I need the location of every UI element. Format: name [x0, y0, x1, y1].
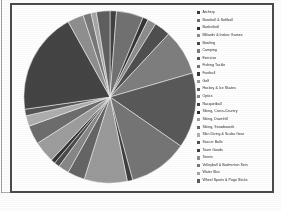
legend-item[interactable]: Camping — [197, 47, 269, 55]
legend-item-label: Skiing, Downhill — [202, 116, 228, 124]
legend-item-label: Billiards & Indoor Games — [202, 32, 242, 40]
legend-item[interactable]: Tennis — [197, 154, 269, 162]
chart-page: ArcheryBaseball & SoftballBasketballBill… — [0, 0, 281, 211]
legend-swatch-icon — [197, 156, 200, 159]
outer-border-bottom — [1, 192, 10, 193]
legend-item[interactable]: Football — [197, 70, 269, 78]
legend-item[interactable]: Soccer Balls — [197, 139, 269, 147]
legend-swatch-icon — [197, 65, 200, 68]
legend-swatch-icon — [197, 19, 200, 22]
outer-border-left — [1, 0, 2, 193]
legend-swatch-icon — [197, 49, 200, 52]
legend-item[interactable]: Billiards & Indoor Games — [197, 32, 269, 40]
legend-swatch-icon — [197, 172, 200, 175]
legend-item[interactable]: Skiing, Downhill — [197, 116, 269, 124]
legend-swatch-icon — [197, 95, 200, 98]
legend-swatch-icon — [197, 118, 200, 121]
chart-frame: ArcheryBaseball & SoftballBasketballBill… — [10, 3, 274, 193]
legend-swatch-icon — [197, 164, 200, 167]
legend-swatch-icon — [197, 149, 200, 152]
legend-item[interactable]: Wheel Sports & Pogo Sticks — [197, 177, 269, 185]
legend-item[interactable]: Archery — [197, 9, 269, 17]
legend-swatch-icon — [197, 103, 200, 106]
pie-plot-area — [14, 6, 196, 192]
chart-legend: ArcheryBaseball & SoftballBasketballBill… — [197, 9, 269, 189]
legend-swatch-icon — [197, 72, 200, 75]
pie-slices-group — [23, 10, 197, 184]
legend-swatch-icon — [197, 111, 200, 114]
legend-swatch-icon — [197, 57, 200, 60]
legend-swatch-icon — [197, 179, 200, 182]
legend-swatch-icon — [197, 133, 200, 136]
legend-item[interactable]: Optics — [197, 93, 269, 101]
legend-swatch-icon — [197, 34, 200, 37]
legend-swatch-icon — [197, 88, 200, 91]
pie-canvas — [23, 10, 197, 184]
pie-chart — [23, 10, 197, 184]
legend-swatch-icon — [197, 11, 200, 14]
legend-swatch-icon — [197, 42, 200, 45]
legend-item-label: Wheel Sports & Pogo Sticks — [202, 177, 247, 185]
legend-item-label: Soccer Balls — [202, 139, 222, 147]
legend-swatch-icon — [197, 141, 200, 144]
legend-swatch-icon — [197, 27, 200, 30]
legend-swatch-icon — [197, 126, 200, 129]
legend-swatch-icon — [197, 80, 200, 83]
